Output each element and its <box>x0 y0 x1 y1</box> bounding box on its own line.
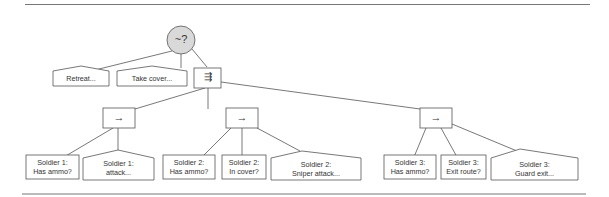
s3-exit-label: Soldier 3: Exit route? <box>441 158 486 176</box>
edges <box>64 49 517 157</box>
s2-ammo-label: Soldier 2: Has ammo? <box>163 158 215 176</box>
s1-attack-label: Soldier 1: attack... <box>83 159 154 177</box>
sequence-arrow-icon: → <box>226 111 258 123</box>
sequence-arrow-icon: → <box>420 111 452 123</box>
s2-sniper-label: Soldier 2: Sniper attack... <box>271 160 361 178</box>
parallel-icon: ⇶ <box>194 71 221 82</box>
s3-ammo-label: Soldier 3: Has ammo? <box>384 158 436 176</box>
root-symbol: ~? <box>167 33 195 45</box>
s2-cover-label: Soldier 2: In cover? <box>222 158 266 176</box>
s1-ammo-label: Soldier 1: Has ammo? <box>26 158 79 176</box>
sequence-arrow-icon: → <box>103 111 135 123</box>
retreat-label: Retreat... <box>53 74 109 83</box>
s3-guard-label: Soldier 3: Guard exit... <box>491 160 578 178</box>
take-cover-label: Take cover... <box>117 74 187 83</box>
